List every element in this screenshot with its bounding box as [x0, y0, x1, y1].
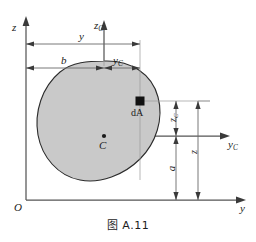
area-shape	[37, 61, 160, 181]
dim-yc-subscript: C	[118, 60, 123, 68]
axis-y-label: y	[240, 203, 245, 214]
axis-yc-label: yC	[228, 139, 238, 152]
dim-yc-label: yC	[113, 55, 123, 68]
dim-y-total	[26, 41, 140, 46]
centroid-point	[102, 134, 106, 138]
dim-a-label: a	[166, 166, 177, 172]
axis-z-arrowhead	[23, 16, 30, 26]
axis-zc-subscript: C	[98, 25, 103, 33]
axis-zc-label: zC	[94, 20, 103, 33]
axis-yc-subscript: C	[233, 144, 238, 152]
figure-container: z zC y yC O C dA y b yC zC a z 图 A.11	[0, 0, 256, 242]
axis-z-label: z	[12, 22, 16, 33]
dim-zc-label: zC	[168, 114, 179, 122]
element-marker	[136, 97, 145, 106]
dim-y-total-label: y	[79, 31, 84, 42]
dim-zc-subscript: C	[172, 114, 179, 118]
dim-b-label: b	[61, 55, 67, 66]
figure-drawing	[0, 0, 256, 242]
dim-z-total-label: z	[189, 150, 199, 154]
origin-label: O	[14, 202, 22, 213]
element-label: dA	[131, 108, 143, 118]
centroid-label: C	[99, 140, 106, 151]
figure-caption: 图 A.11	[0, 216, 256, 232]
